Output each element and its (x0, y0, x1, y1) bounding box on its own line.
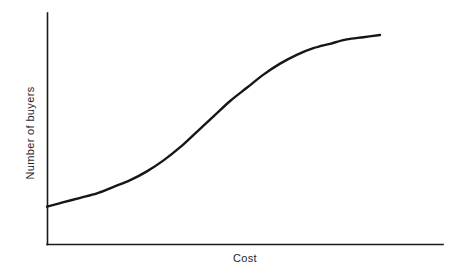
y-axis-label: Number of buyers (24, 33, 36, 233)
chart-figure: Number of buyers Cost (0, 0, 464, 278)
chart-plot-area (0, 0, 464, 278)
x-axis-label: Cost (47, 252, 443, 264)
data-curve-number-of-buyers (47, 35, 380, 207)
